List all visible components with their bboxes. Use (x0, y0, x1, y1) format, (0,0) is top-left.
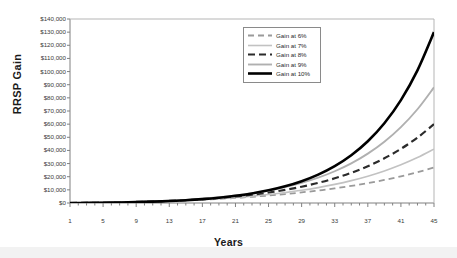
legend-item: Gain at 8% (247, 50, 317, 60)
legend-label: Gain at 7% (273, 42, 307, 49)
legend-label: Gain at 10% (273, 70, 310, 77)
legend-swatch-icon (247, 50, 273, 59)
legend-item: Gain at 9% (247, 60, 317, 70)
series-line-gain-at-8 (70, 124, 434, 203)
rrsp-gain-line-chart: RRSP Gain $0$10,000$20,000$30,000$40,000… (0, 0, 457, 258)
chart-legend: Gain at 6%Gain at 7%Gain at 8%Gain at 9%… (243, 27, 321, 83)
legend-swatch-icon (247, 31, 273, 40)
legend-item: Gain at 10% (247, 69, 317, 79)
legend-swatch-icon (247, 60, 273, 69)
footer-band (0, 247, 457, 258)
legend-label: Gain at 6% (273, 32, 307, 39)
plot-area (0, 0, 457, 258)
legend-label: Gain at 8% (273, 51, 307, 58)
legend-swatch-icon (247, 41, 273, 50)
x-ticks (70, 203, 434, 207)
legend-item: Gain at 7% (247, 41, 317, 51)
series-line-gain-at-9 (70, 87, 434, 203)
legend-item: Gain at 6% (247, 31, 317, 41)
legend-swatch-icon (247, 69, 273, 78)
legend-label: Gain at 9% (273, 61, 307, 68)
